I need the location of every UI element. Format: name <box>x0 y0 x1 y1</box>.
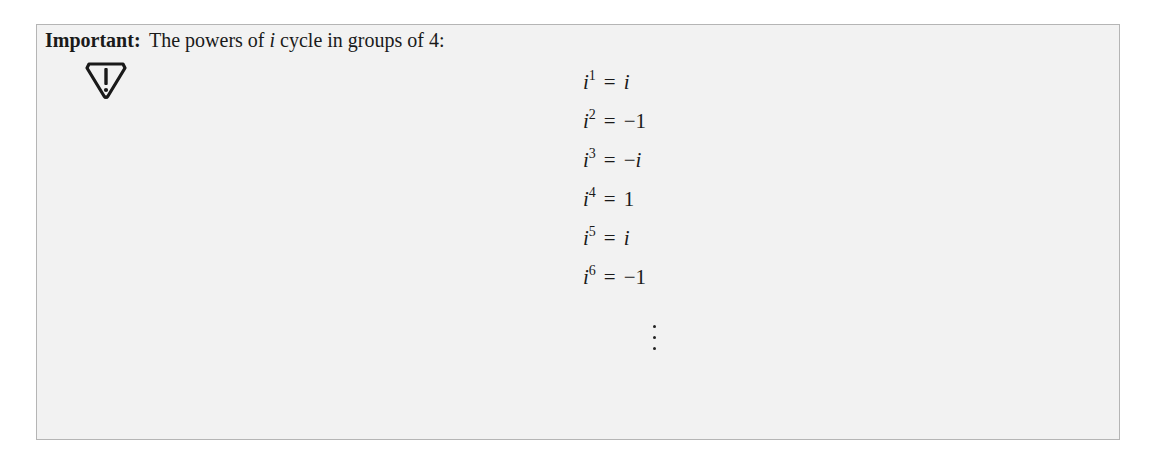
eq-rhs: i <box>636 148 642 172</box>
eq-sign: − <box>624 148 636 172</box>
equation-row: i5=i <box>583 219 646 258</box>
equation-row: i4=1 <box>583 180 646 219</box>
equation-row: i3=−i <box>583 141 646 180</box>
eq-operator: = <box>604 226 616 250</box>
eq-sign: − <box>624 265 636 289</box>
eq-rhs: 1 <box>636 265 647 289</box>
intro-prefix: The powers of <box>149 29 270 51</box>
vdot <box>653 325 656 328</box>
equation-row: i6=−1 <box>583 258 646 297</box>
intro-suffix: cycle in groups of 4: <box>275 29 444 51</box>
eq-operator: = <box>604 109 616 133</box>
eq-sign: − <box>624 109 636 133</box>
eq-rhs: i <box>624 226 630 250</box>
callout-label: Important: <box>45 29 141 52</box>
eq-exponent: 3 <box>589 146 596 161</box>
powers-of-i-list: i1=i i2=−1 i3=−i i4=1 i5=i i6=−1 <box>583 63 646 297</box>
equation-row: i2=−1 <box>583 102 646 141</box>
eq-exponent: 4 <box>589 185 596 200</box>
eq-exponent: 5 <box>589 224 596 239</box>
eq-rhs: 1 <box>636 109 647 133</box>
eq-operator: = <box>604 70 616 94</box>
eq-exponent: 1 <box>589 68 596 83</box>
eq-operator: = <box>604 187 616 211</box>
equation-row: i1=i <box>583 63 646 102</box>
eq-rhs: i <box>624 70 630 94</box>
eq-operator: = <box>604 265 616 289</box>
eq-operator: = <box>604 148 616 172</box>
eq-rhs: 1 <box>624 187 635 211</box>
vdot <box>653 347 656 350</box>
callout-intro: The powers of i cycle in groups of 4: <box>149 29 445 52</box>
vdot <box>653 336 656 339</box>
eq-exponent: 6 <box>589 263 596 278</box>
continuation-vdots <box>653 325 659 365</box>
warning-triangle-icon <box>84 60 128 100</box>
important-callout: Important: The powers of i cycle in grou… <box>36 24 1120 440</box>
eq-exponent: 2 <box>589 107 596 122</box>
